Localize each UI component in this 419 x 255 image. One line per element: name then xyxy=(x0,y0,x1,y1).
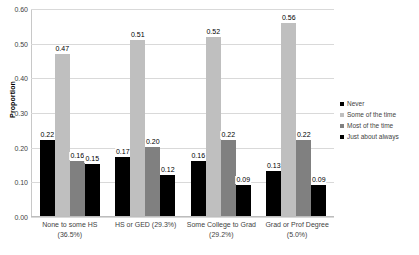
bar[interactable] xyxy=(206,37,221,216)
bar-slot: 0.22 xyxy=(296,9,311,216)
bar-value-label: 0.12 xyxy=(160,166,176,174)
x-axis-category-label: Some College to Grad(29.2%) xyxy=(184,220,260,240)
bar[interactable] xyxy=(40,140,55,216)
legend-swatch-icon xyxy=(340,124,344,128)
bar-slot: 0.22 xyxy=(221,9,236,216)
bar-group: 0.160.520.220.09 xyxy=(183,9,259,216)
bar-value-label: 0.51 xyxy=(130,31,146,39)
bar-slot: 0.12 xyxy=(160,9,175,216)
bar-value-label: 0.16 xyxy=(190,152,206,160)
bar-value-label: 0.09 xyxy=(235,176,251,184)
bar[interactable] xyxy=(130,40,145,216)
bar[interactable] xyxy=(70,161,85,216)
bar-chart: Proportion 0.600.500.400.300.200.100.00 … xyxy=(0,0,419,255)
bar-value-label: 0.16 xyxy=(69,152,85,160)
y-tick-label: 0.00 xyxy=(14,214,28,221)
bar-value-label: 0.22 xyxy=(39,131,55,139)
x-axis-category-label: None to some HS(36.5%) xyxy=(32,220,108,240)
bar[interactable] xyxy=(221,140,236,216)
x-axis-category-line: (5.0%) xyxy=(259,230,335,240)
bar-group: 0.170.510.200.12 xyxy=(108,9,184,216)
x-axis-category-label: Grad or Prof Degree(5.0%) xyxy=(259,220,335,240)
legend-item[interactable]: Just about always xyxy=(340,131,419,142)
bar[interactable] xyxy=(191,161,206,216)
bar-slot: 0.16 xyxy=(70,9,85,216)
bar-value-label: 0.22 xyxy=(220,131,236,139)
bar-slot: 0.09 xyxy=(236,9,251,216)
y-tick-label: 0.60 xyxy=(14,6,28,13)
bar-value-label: 0.17 xyxy=(115,148,131,156)
bar-groups: 0.220.470.160.150.170.510.200.120.160.52… xyxy=(32,9,334,216)
legend-swatch-icon xyxy=(340,135,344,139)
bar[interactable] xyxy=(296,140,311,216)
bar-value-label: 0.22 xyxy=(296,131,312,139)
x-axis-category-line: (36.5%) xyxy=(32,230,108,240)
bar-slot: 0.20 xyxy=(145,9,160,216)
bar[interactable] xyxy=(236,185,251,216)
x-axis-category-line: Some College to Grad xyxy=(184,220,260,230)
y-tick-label: 0.50 xyxy=(14,40,28,47)
legend-item[interactable]: Some of the time xyxy=(340,109,419,120)
bar-value-label: 0.13 xyxy=(266,162,282,170)
bar[interactable] xyxy=(55,54,70,216)
bar-slot: 0.17 xyxy=(115,9,130,216)
bar-slot: 0.56 xyxy=(281,9,296,216)
y-tick-label: 0.10 xyxy=(14,179,28,186)
legend-label: Never xyxy=(347,100,364,107)
bar-value-label: 0.20 xyxy=(145,138,161,146)
bar[interactable] xyxy=(145,147,160,216)
bar-slot: 0.51 xyxy=(130,9,145,216)
legend-swatch-icon xyxy=(340,113,344,117)
legend-label: Just about always xyxy=(347,133,399,140)
legend: NeverSome of the timeMost of the timeJus… xyxy=(340,98,419,142)
y-tick-label: 0.40 xyxy=(14,75,28,82)
legend-label: Most of the time xyxy=(347,122,393,129)
bar-slot: 0.16 xyxy=(191,9,206,216)
bar-slot: 0.09 xyxy=(311,9,326,216)
bar[interactable] xyxy=(281,23,296,216)
x-axis-category-line: HS or GED (29.3%) xyxy=(108,220,184,230)
x-axis-category-line: None to some HS xyxy=(32,220,108,230)
bar[interactable] xyxy=(115,157,130,216)
bar-value-label: 0.56 xyxy=(281,14,297,22)
y-tick-label: 0.20 xyxy=(14,144,28,151)
gridline xyxy=(31,217,334,218)
bar[interactable] xyxy=(311,185,326,216)
bar-slot: 0.47 xyxy=(55,9,70,216)
bar-value-label: 0.15 xyxy=(84,155,100,163)
legend-item[interactable]: Never xyxy=(340,98,419,109)
bar-value-label: 0.09 xyxy=(311,176,327,184)
bar-slot: 0.52 xyxy=(206,9,221,216)
y-tick-label: 0.30 xyxy=(14,110,28,117)
bar-group: 0.130.560.220.09 xyxy=(259,9,335,216)
bar-group: 0.220.470.160.15 xyxy=(32,9,108,216)
legend-label: Some of the time xyxy=(347,111,396,118)
x-axis-labels: None to some HS(36.5%)HS or GED (29.3%)S… xyxy=(32,220,335,240)
y-axis-title: Proportion xyxy=(9,60,16,140)
x-axis-category-label: HS or GED (29.3%) xyxy=(108,220,184,240)
x-axis-category-line: (29.2%) xyxy=(184,230,260,240)
bar[interactable] xyxy=(266,171,281,216)
bar[interactable] xyxy=(85,164,100,216)
legend-swatch-icon xyxy=(340,102,344,106)
bar-value-label: 0.47 xyxy=(54,45,70,53)
bar-value-label: 0.52 xyxy=(205,28,221,36)
plot-area: 0.600.500.400.300.200.100.00 0.220.470.1… xyxy=(31,9,334,217)
bar-slot: 0.15 xyxy=(85,9,100,216)
x-axis-category-line: Grad or Prof Degree xyxy=(259,220,335,230)
bar[interactable] xyxy=(160,175,175,216)
bar-slot: 0.22 xyxy=(40,9,55,216)
bar-slot: 0.13 xyxy=(266,9,281,216)
legend-item[interactable]: Most of the time xyxy=(340,120,419,131)
